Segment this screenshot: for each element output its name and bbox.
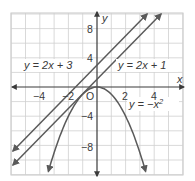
y-tick-4: 4 (87, 52, 93, 64)
y-tick-neg4: −4 (81, 110, 93, 122)
equation-label-neg-x-squared: y = −x2 (128, 97, 164, 110)
equation-label-2x-plus-3: y = 2x + 3 (23, 59, 73, 71)
y-tick-8: 8 (87, 23, 93, 35)
origin-label: O (86, 90, 94, 102)
graph-figure: x y O −4 −2 2 4 8 4 −4 −8 y = 2x + 3 y =… (0, 0, 195, 181)
y-tick-neg8: −8 (81, 141, 93, 153)
x-axis-label: x (176, 73, 183, 85)
x-tick-2: 2 (122, 90, 128, 102)
coordinate-plane: x y O −4 −2 2 4 8 4 −4 −8 y = 2x + 3 y =… (0, 0, 195, 181)
eq3-exponent: 2 (158, 97, 164, 106)
x-tick-neg4: −4 (33, 90, 45, 102)
x-tick-neg2: −2 (62, 90, 74, 102)
equation-label-2x-plus-1: y = 2x + 1 (117, 59, 166, 71)
eq3-base: y = −x (128, 98, 159, 110)
